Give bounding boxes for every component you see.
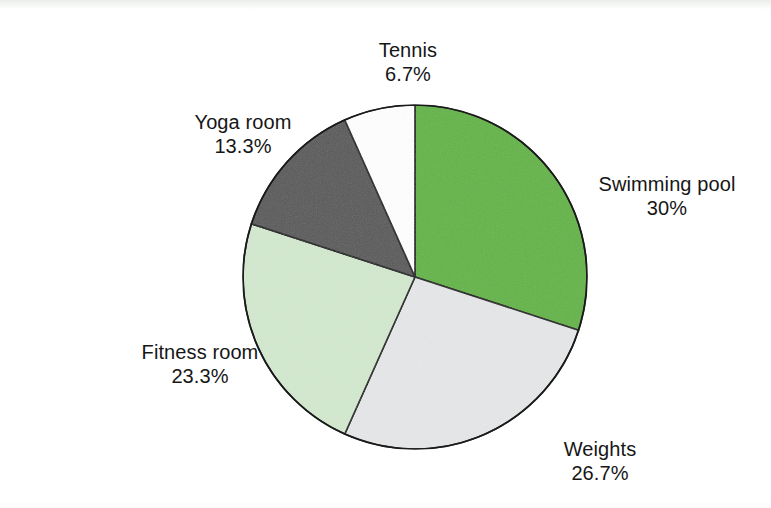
pie-label-tennis-percent: 6.7% [333,62,483,86]
pie-label-tennis: Tennis 6.7% [333,38,483,86]
pie-label-swimming-pool: Swimming pool 30% [572,172,762,220]
pie-label-tennis-name: Tennis [333,38,483,62]
scan-artifact-bottom-strip [0,502,771,508]
pie-label-swimming-pool-percent: 30% [572,196,762,220]
pie-label-yoga-room-name: Yoga room [163,110,323,134]
pie-label-fitness-room-name: Fitness room [110,340,290,364]
pie-label-fitness-room-percent: 23.3% [110,364,290,388]
page-root: Tennis 6.7% Yoga room 13.3% Swimming poo… [0,0,771,508]
pie-label-weights-percent: 26.7% [520,461,680,485]
pie-label-fitness-room: Fitness room 23.3% [110,340,290,388]
pie-label-weights-name: Weights [520,437,680,461]
pie-chart: Tennis 6.7% Yoga room 13.3% Swimming poo… [0,0,771,508]
pie-label-swimming-pool-name: Swimming pool [572,172,762,196]
pie-label-yoga-room: Yoga room 13.3% [163,110,323,158]
pie-label-yoga-room-percent: 13.3% [163,134,323,158]
pie-label-weights: Weights 26.7% [520,437,680,485]
